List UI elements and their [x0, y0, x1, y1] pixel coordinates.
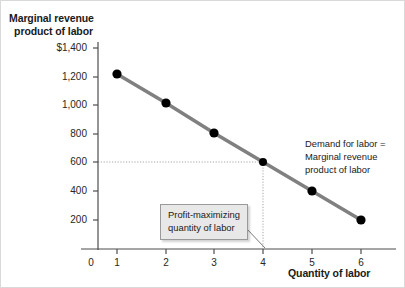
- chart-figure: Marginal revenueproduct of labor Quantit…: [0, 0, 405, 288]
- y-axis-title: Marginal revenueproduct of labor: [9, 12, 93, 38]
- demand-annotation-line2: Marginal revenue: [305, 151, 377, 162]
- y-tick-label-200: 200: [31, 214, 87, 225]
- callout-line1: Profit-maximizing: [168, 209, 240, 220]
- y-tick-label-600: 600: [31, 156, 87, 167]
- x-axis-ticks: [117, 249, 361, 254]
- demand-curve-annotation: Demand for labor =Marginal revenueproduc…: [305, 137, 386, 176]
- y-axis-title-line1: Marginal revenue: [9, 12, 94, 24]
- x-tick-label-6: 6: [349, 257, 373, 268]
- y-tick-label-1400: $1,400: [31, 42, 87, 53]
- profit-maximizing-callout: Profit-maximizingquantity of labor: [160, 204, 248, 240]
- y-axis-title-line2: product of labor: [14, 25, 93, 37]
- data-point-q6: [356, 215, 365, 224]
- demand-annotation-line3: product of labor: [305, 164, 370, 175]
- callout-leader-line: [246, 228, 265, 248]
- x-tick-label-2: 2: [154, 257, 178, 268]
- x-tick-label-5: 5: [300, 257, 324, 268]
- x-axis-title: Quantity of labor: [288, 267, 370, 280]
- y-tick-label-1000: 1,000: [31, 99, 87, 110]
- data-point-q1: [112, 69, 121, 78]
- demand-annotation-line1: Demand for labor =: [305, 138, 386, 149]
- y-tick-label-400: 400: [31, 185, 87, 196]
- y-tick-label-1200: 1,200: [31, 71, 87, 82]
- data-point-q5: [307, 186, 316, 195]
- data-point-q3: [209, 128, 218, 137]
- y-axis-ticks: [93, 48, 98, 220]
- data-point-q4: [259, 158, 267, 166]
- y-tick-label-800: 800: [31, 128, 87, 139]
- callout-line2: quantity of labor: [168, 222, 235, 233]
- data-point-q2: [161, 98, 170, 107]
- x-tick-label-0: 0: [79, 257, 103, 268]
- x-tick-label-1: 1: [105, 257, 129, 268]
- x-tick-label-4: 4: [251, 257, 275, 268]
- x-tick-label-3: 3: [202, 257, 226, 268]
